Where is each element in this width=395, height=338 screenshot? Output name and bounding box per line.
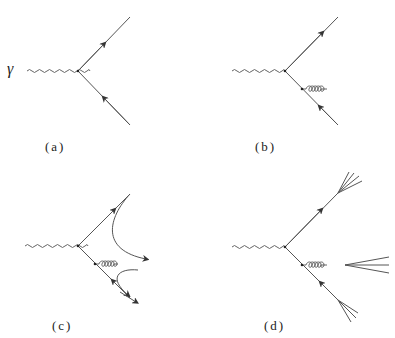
gluon-line [302,86,327,91]
panel-c [25,194,146,302]
jet-spray [338,173,354,193]
panel-label-b: (b) [255,139,276,155]
vertex [77,70,80,73]
panel-label-d: (d) [264,318,285,334]
gluon-line [302,262,327,267]
panel-label-a: (a) [45,139,65,155]
jet-spray [345,257,389,265]
colour-string-upper [112,194,146,259]
photon-line [27,70,90,73]
panel-b [232,17,338,125]
panel-d [232,172,389,322]
gluon-line [95,261,118,266]
colour-string-lower [117,270,138,295]
panel-a [27,17,130,125]
feynman-diagrams [0,0,395,338]
photon-line [232,246,285,249]
panel-label-c: (c) [52,318,72,334]
photon-symbol: γ [7,60,13,78]
photon-line [232,70,285,73]
